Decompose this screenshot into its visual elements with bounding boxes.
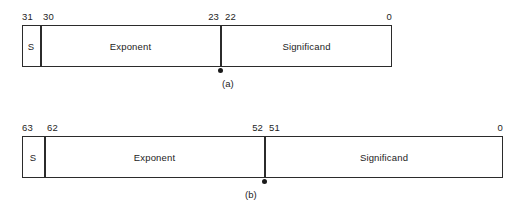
- sign-field-label: S: [22, 153, 44, 163]
- binary-point-dot: [262, 179, 267, 184]
- caption-a: (a): [222, 79, 234, 89]
- binary-point-dot: [218, 68, 223, 73]
- bit-label-31: 31: [22, 12, 33, 22]
- bit-label-22: 22: [225, 12, 236, 22]
- bit-label-62: 62: [47, 123, 58, 133]
- bit-label-30: 30: [43, 12, 54, 22]
- exponent-field-label: Exponent: [41, 42, 220, 52]
- caption-b: (b): [245, 190, 257, 200]
- bit-label-0: 0: [473, 123, 503, 133]
- bit-label-0: 0: [362, 12, 392, 22]
- significand-field-label: Significand: [221, 42, 392, 52]
- significand-field-label: Significand: [265, 153, 503, 163]
- floating-point-format-figure: 31 30 23 22 0 S Exponent Significand (a)…: [0, 0, 522, 208]
- bit-label-52: 52: [223, 123, 263, 133]
- sign-field-label: S: [22, 42, 40, 52]
- exponent-field-label: Exponent: [45, 153, 264, 163]
- bit-label-23: 23: [179, 12, 219, 22]
- bit-label-63: 63: [22, 123, 33, 133]
- bit-label-51: 51: [269, 123, 280, 133]
